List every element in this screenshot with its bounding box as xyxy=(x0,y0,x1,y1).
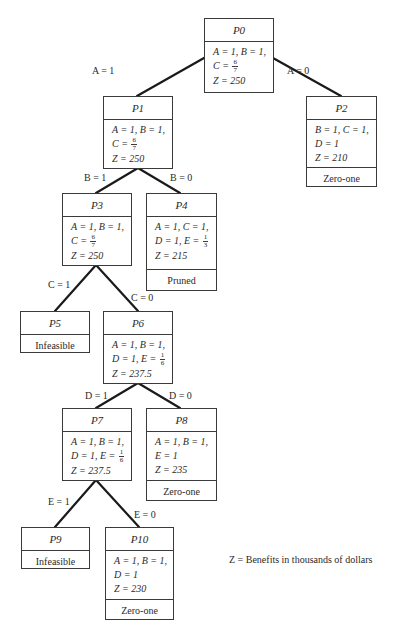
node-p3-label: P3 xyxy=(63,194,131,217)
node-p8-status: Zero-one xyxy=(147,480,216,502)
node-p1-line2: C = xyxy=(112,138,128,149)
edge-label-d0: D = 0 xyxy=(169,390,192,401)
edge-label-e1: E = 1 xyxy=(48,496,70,507)
node-p3-body: A = 1, B = 1, C = 67 Z = 250 xyxy=(63,217,131,266)
node-p2-line1: B = 1, C = 1, xyxy=(315,123,376,137)
fraction: 67 xyxy=(90,234,96,249)
node-p5-label: P5 xyxy=(21,312,89,335)
legend-note: Z = Benefits in thousands of dollars xyxy=(229,554,372,565)
node-p0-line2: C = xyxy=(213,60,229,71)
node-p6-line1: A = 1, B = 1, xyxy=(112,338,172,352)
fraction: 13 xyxy=(203,234,209,249)
node-p1-line3: Z = 250 xyxy=(112,152,172,166)
node-p4-label: P4 xyxy=(147,194,216,217)
node-p4-body: A = 1, C = 1, D = 1, E = 13 Z = 215 xyxy=(147,217,216,269)
node-p4-line1: A = 1, C = 1, xyxy=(155,220,216,234)
node-p0-line1: A = 1, B = 1, xyxy=(213,45,273,59)
node-p1-label: P1 xyxy=(104,97,172,120)
node-p7-line2: D = 1, E = xyxy=(71,450,115,461)
node-p2-line2: D = 1 xyxy=(315,137,376,151)
node-p10: P10 A = 1, B = 1, D = 1 Z = 230 Zero-one xyxy=(105,527,174,620)
edge-p7-p10 xyxy=(96,480,139,527)
node-p6: P6 A = 1, B = 1, D = 1, E = 16 Z = 237.5 xyxy=(103,311,173,384)
node-p2-label: P2 xyxy=(307,97,376,120)
node-p5: P5 Infeasible xyxy=(20,311,90,353)
node-p7: P7 A = 1, B = 1, D = 1, E = 16 Z = 237.5 xyxy=(62,408,132,481)
node-p8-line1: A = 1, B = 1, xyxy=(155,435,216,449)
node-p10-line1: A = 1, B = 1, xyxy=(114,554,173,568)
node-p7-body: A = 1, B = 1, D = 1, E = 16 Z = 237.5 xyxy=(63,432,131,481)
node-p2-status: Zero-one xyxy=(307,167,376,189)
node-p10-line3: Z = 230 xyxy=(114,582,173,596)
node-p9-status: Infeasible xyxy=(22,551,89,572)
node-p2-body: B = 1, C = 1, D = 1 Z = 210 xyxy=(307,120,376,167)
edge-p0-p1 xyxy=(137,58,204,96)
node-p0-body: A = 1, B = 1, C = 67 Z = 250 xyxy=(205,42,273,91)
node-p8-line2: E = 1 xyxy=(155,449,216,463)
node-p2: P2 B = 1, C = 1, D = 1 Z = 210 Zero-one xyxy=(306,96,377,187)
node-p1-body: A = 1, B = 1, C = 67 Z = 250 xyxy=(104,120,172,169)
edge-label-a1: A = 1 xyxy=(92,65,114,76)
node-p3-line3: Z = 250 xyxy=(71,249,131,263)
fraction: 16 xyxy=(160,352,166,367)
node-p6-line3: Z = 237.5 xyxy=(112,367,172,381)
node-p6-line2: D = 1, E = xyxy=(112,353,156,364)
node-p4-status: Pruned xyxy=(147,269,216,291)
node-p8-label: P8 xyxy=(147,409,216,432)
node-p7-line3: Z = 237.5 xyxy=(71,464,131,478)
node-p0-line3: Z = 250 xyxy=(213,74,273,88)
fraction: 67 xyxy=(131,137,137,152)
node-p2-line3: Z = 210 xyxy=(315,151,376,165)
node-p9-label: P9 xyxy=(22,528,89,551)
fraction: 67 xyxy=(232,59,238,74)
node-p6-body: A = 1, B = 1, D = 1, E = 16 Z = 237.5 xyxy=(104,335,172,384)
node-p10-body: A = 1, B = 1, D = 1 Z = 230 xyxy=(106,551,173,599)
node-p8-body: A = 1, B = 1, E = 1 Z = 235 xyxy=(147,432,216,480)
node-p4: P4 A = 1, C = 1, D = 1, E = 13 Z = 215 P… xyxy=(146,193,217,291)
edge-label-c0: C = 0 xyxy=(131,292,153,303)
edge-p3-p6 xyxy=(96,265,138,311)
edge-label-b1: B = 1 xyxy=(84,172,106,183)
node-p4-line3: Z = 215 xyxy=(155,249,216,263)
node-p9: P9 Infeasible xyxy=(21,527,90,569)
node-p4-line2: D = 1, E = xyxy=(155,235,199,246)
node-p3-line2: C = xyxy=(71,235,87,246)
node-p8-line3: Z = 235 xyxy=(155,463,216,477)
node-p1: P1 A = 1, B = 1, C = 67 Z = 250 xyxy=(103,96,173,169)
node-p10-label: P10 xyxy=(106,528,173,551)
node-p0: P0 A = 1, B = 1, C = 67 Z = 250 xyxy=(204,18,274,93)
edge-label-b0: B = 0 xyxy=(170,172,192,183)
node-p6-label: P6 xyxy=(104,312,172,335)
node-p3-line1: A = 1, B = 1, xyxy=(71,220,131,234)
node-p10-line2: D = 1 xyxy=(114,568,173,582)
edge-label-c1: C = 1 xyxy=(48,279,70,290)
node-p5-status: Infeasible xyxy=(21,335,89,356)
edge-p0-p2 xyxy=(273,58,341,96)
edge-label-d1: D = 1 xyxy=(85,390,108,401)
node-p7-line1: A = 1, B = 1, xyxy=(71,435,131,449)
node-p7-label: P7 xyxy=(63,409,131,432)
node-p0-label: P0 xyxy=(205,19,273,42)
node-p10-status: Zero-one xyxy=(106,599,173,621)
fraction: 16 xyxy=(119,449,125,464)
edge-label-e0: E = 0 xyxy=(134,509,156,520)
node-p3: P3 A = 1, B = 1, C = 67 Z = 250 xyxy=(62,193,132,266)
node-p1-line1: A = 1, B = 1, xyxy=(112,123,172,137)
node-p8: P8 A = 1, B = 1, E = 1 Z = 235 Zero-one xyxy=(146,408,217,501)
edge-label-a0: A = 0 xyxy=(287,65,309,76)
